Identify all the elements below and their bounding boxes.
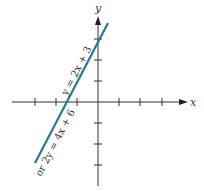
y-axis-arrow-icon bbox=[95, 16, 101, 25]
coordinate-plane: x y y = 2x + 3 or 2y = 4x + 6 bbox=[0, 0, 204, 191]
equation-primary: y = 2x + 3 bbox=[59, 44, 94, 97]
x-axis-arrow-icon bbox=[179, 99, 188, 105]
graph-line bbox=[35, 23, 108, 163]
y-axis-label: y bbox=[94, 2, 102, 15]
equation-alternate: or 2y = 4x + 6 bbox=[33, 107, 77, 178]
x-axis-label: x bbox=[190, 96, 197, 109]
graph-figure: x y y = 2x + 3 or 2y = 4x + 6 bbox=[0, 0, 204, 191]
